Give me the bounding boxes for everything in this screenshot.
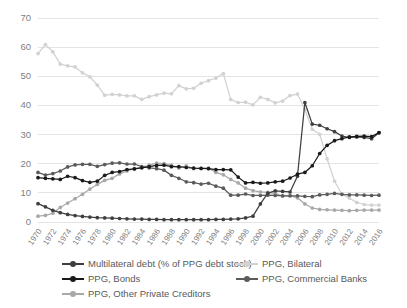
data-point bbox=[140, 217, 144, 221]
data-point bbox=[214, 168, 218, 172]
legend-dot-swatch bbox=[70, 291, 76, 297]
data-point bbox=[318, 208, 322, 212]
data-point bbox=[110, 216, 114, 220]
data-point bbox=[273, 189, 277, 193]
data-point bbox=[95, 183, 99, 187]
legend-item-label: PPG, Bonds bbox=[88, 273, 140, 284]
data-point bbox=[44, 173, 48, 177]
x-axis-tick-label: 2000 bbox=[249, 227, 267, 247]
data-point bbox=[155, 164, 159, 168]
x-axis-tick-label: 2008 bbox=[308, 227, 326, 247]
legend-item-label: Multilateral debt (% of PPG debt stock) bbox=[88, 258, 252, 269]
data-point bbox=[66, 213, 70, 217]
data-point bbox=[251, 214, 255, 218]
data-point bbox=[273, 194, 277, 198]
data-point bbox=[44, 213, 48, 217]
plot-area: 010203040506070 197019721974197619781980… bbox=[0, 0, 407, 262]
data-point bbox=[370, 194, 374, 198]
data-point bbox=[259, 95, 263, 99]
data-point bbox=[147, 165, 151, 169]
data-point bbox=[103, 174, 107, 178]
legend-item-4[interactable]: PPG, Commercial Banks bbox=[236, 273, 367, 284]
data-point bbox=[170, 218, 174, 222]
data-point bbox=[51, 177, 55, 181]
data-point bbox=[133, 167, 137, 171]
legend-item-5[interactable]: PPG, Other Private Creditors bbox=[62, 288, 210, 299]
gridlines bbox=[38, 18, 379, 222]
line-chart-svg: 010203040506070 197019721974197619781980… bbox=[0, 0, 407, 262]
data-point bbox=[333, 179, 337, 183]
data-point bbox=[88, 75, 92, 79]
x-axis-tick-label: 2010 bbox=[323, 227, 341, 247]
data-point bbox=[355, 134, 359, 138]
chart-container: 010203040506070 197019721974197619781980… bbox=[0, 0, 407, 308]
data-point bbox=[95, 83, 99, 87]
x-axis-tick-label: 2012 bbox=[338, 227, 356, 247]
data-point bbox=[362, 203, 366, 207]
data-point bbox=[103, 216, 107, 220]
data-point bbox=[207, 167, 211, 171]
data-point bbox=[244, 186, 248, 190]
y-axis-tick-label: 10 bbox=[20, 187, 31, 198]
x-axis-tick-label: 1984 bbox=[130, 227, 148, 247]
data-point bbox=[325, 192, 329, 196]
legend-marker-icon bbox=[62, 289, 84, 299]
data-point bbox=[355, 208, 359, 212]
data-point bbox=[303, 202, 307, 206]
data-point bbox=[340, 208, 344, 212]
data-point bbox=[370, 135, 374, 139]
data-point bbox=[236, 101, 240, 105]
data-point bbox=[333, 139, 337, 143]
data-point bbox=[162, 163, 166, 167]
data-point bbox=[259, 194, 263, 198]
data-point bbox=[192, 218, 196, 222]
data-point bbox=[118, 170, 122, 174]
data-point bbox=[58, 62, 62, 66]
data-point bbox=[199, 218, 203, 222]
data-point bbox=[266, 181, 270, 185]
data-point bbox=[221, 168, 225, 172]
data-point bbox=[36, 52, 40, 56]
data-point bbox=[214, 76, 218, 80]
data-series-group bbox=[36, 43, 381, 222]
data-point bbox=[296, 194, 300, 198]
data-point bbox=[95, 164, 99, 168]
data-point bbox=[58, 178, 62, 182]
data-point bbox=[66, 201, 70, 205]
x-axis-tick-label: 2016 bbox=[367, 227, 385, 247]
data-point bbox=[229, 193, 233, 197]
y-axis-tick-labels: 010203040506070 bbox=[20, 12, 31, 227]
data-point bbox=[184, 218, 188, 222]
data-point bbox=[125, 162, 129, 166]
data-point bbox=[370, 208, 374, 212]
data-point bbox=[266, 97, 270, 101]
data-point bbox=[36, 214, 40, 218]
legend-item-2[interactable]: PPG, Bilateral bbox=[236, 258, 322, 269]
data-point bbox=[236, 193, 240, 197]
data-point bbox=[155, 167, 159, 171]
legend-item-1[interactable]: Multilateral debt (% of PPG debt stock) bbox=[62, 258, 252, 269]
legend-marker-icon bbox=[236, 274, 258, 284]
y-axis-tick-label: 70 bbox=[20, 12, 31, 23]
y-axis-tick-label: 20 bbox=[20, 158, 31, 169]
data-point bbox=[259, 190, 263, 194]
chart-legend: Multilateral debt (% of PPG debt stock)P… bbox=[0, 258, 407, 308]
data-point bbox=[362, 193, 366, 197]
data-point bbox=[95, 179, 99, 183]
data-point bbox=[325, 157, 329, 161]
data-point bbox=[110, 171, 114, 175]
data-point bbox=[251, 189, 255, 193]
data-point bbox=[266, 191, 270, 195]
data-point bbox=[140, 97, 144, 101]
data-point bbox=[377, 208, 381, 212]
data-point bbox=[125, 168, 129, 172]
data-point bbox=[177, 176, 181, 180]
x-axis-tick-label: 1986 bbox=[145, 227, 163, 247]
data-point bbox=[318, 152, 322, 156]
data-point bbox=[73, 65, 77, 69]
data-point bbox=[310, 127, 314, 131]
legend-item-3[interactable]: PPG, Bonds bbox=[62, 273, 140, 284]
x-axis-tick-label: 1980 bbox=[100, 227, 118, 247]
data-point bbox=[81, 192, 85, 196]
legend-dot-swatch bbox=[244, 261, 250, 267]
